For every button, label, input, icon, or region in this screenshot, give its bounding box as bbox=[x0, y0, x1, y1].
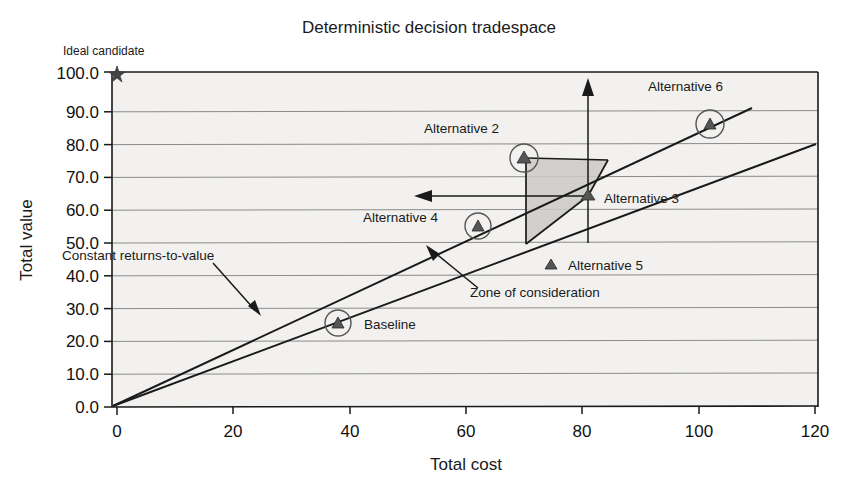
point-label-alternative-3: Alternative 3 bbox=[604, 191, 679, 206]
x-tick-label: 60 bbox=[457, 422, 476, 441]
x-tick-label: 0 bbox=[112, 422, 121, 441]
chart-figure: 0.0 10.0 20.0 30.0 40.0 50.0 60.0 70.0 8… bbox=[0, 0, 858, 498]
y-tick-label: 0.0 bbox=[75, 398, 99, 417]
x-tick-label: 100 bbox=[685, 422, 713, 441]
y-tick-label: 40.0 bbox=[66, 267, 99, 286]
point-label-alternative-4: Alternative 4 bbox=[363, 210, 439, 225]
y-tick-label: 100.0 bbox=[56, 64, 99, 83]
y-tick-label: 60.0 bbox=[66, 201, 99, 220]
x-tick-labels: 0 20 40 60 80 100 120 bbox=[112, 422, 829, 441]
x-axis-title: Total cost bbox=[430, 455, 502, 474]
chart-title: Deterministic decision tradespace bbox=[302, 18, 556, 37]
point-label-alternative-5: Alternative 5 bbox=[568, 258, 643, 273]
y-tick-labels: 0.0 10.0 20.0 30.0 40.0 50.0 60.0 70.0 8… bbox=[56, 64, 99, 418]
annotation-constant-returns-to-value: Constant returns-to-value bbox=[62, 248, 214, 263]
point-label-alternative-2: Alternative 2 bbox=[424, 121, 499, 136]
y-tick-label: 10.0 bbox=[66, 365, 99, 384]
y-tick-label: 20.0 bbox=[66, 332, 99, 351]
x-tick-label: 40 bbox=[341, 422, 360, 441]
y-tick-label: 30.0 bbox=[66, 300, 99, 319]
y-tick-label: 80.0 bbox=[66, 136, 99, 155]
x-tick-label: 120 bbox=[801, 422, 829, 441]
annotation-zone-of-consideration: Zone of consideration bbox=[470, 285, 600, 300]
x-tick-label: 80 bbox=[573, 422, 592, 441]
x-tick-label: 20 bbox=[224, 422, 243, 441]
y-axis-ticks bbox=[104, 72, 112, 407]
deterministic-decision-tradespace-chart: 0.0 10.0 20.0 30.0 40.0 50.0 60.0 70.0 8… bbox=[0, 0, 858, 498]
y-axis-title: Total value bbox=[17, 199, 36, 280]
y-tick-label: 90.0 bbox=[66, 103, 99, 122]
point-label-baseline: Baseline bbox=[364, 317, 416, 332]
point-label-alternative-6: Alternative 6 bbox=[648, 79, 723, 94]
point-label-ideal-candidate: Ideal candidate bbox=[63, 44, 145, 58]
y-tick-label: 70.0 bbox=[66, 168, 99, 187]
